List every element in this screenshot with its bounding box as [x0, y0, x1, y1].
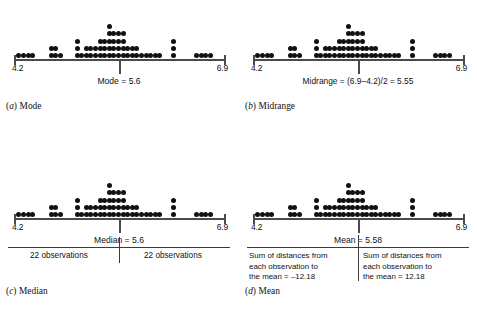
- median-left-note: 22 observations: [30, 250, 88, 261]
- data-dot: [360, 198, 365, 203]
- data-dot: [53, 46, 58, 51]
- data-dot: [410, 205, 415, 210]
- dotplot-c: [14, 165, 226, 217]
- data-dot: [297, 53, 302, 58]
- mean-left-note-line2: each observation to: [249, 262, 354, 273]
- data-dot: [410, 53, 415, 58]
- data-dot: [30, 53, 35, 58]
- caption-c: (c) Median: [6, 285, 48, 296]
- data-dot: [360, 39, 365, 44]
- data-dot: [107, 183, 112, 188]
- axis-label-min: 4.2: [12, 63, 23, 73]
- data-dot: [208, 53, 213, 58]
- median-split-divider: [119, 237, 120, 263]
- data-dot: [410, 212, 415, 217]
- data-dot: [53, 205, 58, 210]
- mean-right-note-line3: the mean = 12.18: [363, 272, 468, 283]
- caption-b: (b) Midrange: [245, 100, 295, 111]
- data-dot: [360, 31, 365, 36]
- data-dot: [410, 39, 415, 44]
- data-dot: [208, 212, 213, 217]
- data-dot: [292, 205, 297, 210]
- data-dot: [30, 212, 35, 217]
- median-pointer: [119, 218, 121, 233]
- mode-value-label: Mode = 5.6: [0, 76, 238, 86]
- panel-mode: 4.2 6.9 Mode = 5.6 (a) Mode: [0, 0, 238, 159]
- data-dot: [171, 46, 176, 51]
- mean-left-note: Sum of distances from each observation t…: [249, 251, 354, 283]
- axis-label-min: 4.2: [12, 222, 23, 232]
- mean-left-note-line3: the mean = –12.18: [249, 272, 354, 283]
- data-dot: [410, 46, 415, 51]
- data-dot: [396, 212, 401, 217]
- caption-a-text: Mode: [20, 101, 42, 111]
- axis-label-min: 4.2: [251, 222, 262, 232]
- data-dot: [75, 205, 80, 210]
- data-dot: [171, 212, 176, 217]
- caption-d-text: Mean: [259, 286, 280, 296]
- caption-d: (d) Mean: [245, 285, 280, 296]
- caption-a: (a) Mode: [6, 100, 41, 111]
- data-dot: [373, 205, 378, 210]
- data-dot: [75, 198, 80, 203]
- dotplot-a: [14, 6, 226, 58]
- mean-left-note-line1: Sum of distances from: [249, 251, 354, 262]
- data-dot: [157, 212, 162, 217]
- mean-split-divider: [358, 235, 359, 281]
- data-dot: [75, 39, 80, 44]
- mode-pointer: [119, 59, 121, 74]
- data-dot: [58, 53, 63, 58]
- panel-mean: 4.2 6.9 Mean = 5.58 Sum of distances fro…: [239, 159, 477, 318]
- data-dot: [171, 205, 176, 210]
- data-dot: [314, 198, 319, 203]
- mean-right-note: Sum of distances from each observation t…: [363, 251, 468, 283]
- data-dot: [269, 212, 274, 217]
- data-dot: [75, 46, 80, 51]
- data-dot: [171, 198, 176, 203]
- midrange-pointer: [358, 59, 360, 74]
- data-dot: [447, 53, 452, 58]
- data-dot: [292, 46, 297, 51]
- median-right-note: 22 observations: [144, 250, 202, 261]
- axis-label-max: 6.9: [217, 63, 228, 73]
- data-dot: [360, 190, 365, 195]
- data-dot: [171, 39, 176, 44]
- dotplot-d: [253, 165, 465, 217]
- axis-label-max: 6.9: [217, 222, 228, 232]
- data-dot: [121, 198, 126, 203]
- data-dot: [297, 212, 302, 217]
- data-dot: [314, 46, 319, 51]
- data-dot: [121, 39, 126, 44]
- axis-label-max: 6.9: [456, 222, 467, 232]
- data-dot: [171, 53, 176, 58]
- axis-label-min: 4.2: [251, 63, 262, 73]
- dotplot-b: [253, 6, 465, 58]
- mean-right-note-line2: each observation to: [363, 262, 468, 273]
- data-dot: [396, 53, 401, 58]
- data-dot: [107, 24, 112, 29]
- panel-median: 4.2 6.9 Median = 5.6 22 observations 22 …: [0, 159, 238, 318]
- data-dot: [134, 46, 139, 51]
- data-dot: [346, 183, 351, 188]
- data-dot: [314, 39, 319, 44]
- statistics-figure: 4.2 6.9 Mode = 5.6 (a) Mode 4.2 6.9 Midr…: [0, 0, 477, 318]
- data-dot: [58, 212, 63, 217]
- mean-right-note-line1: Sum of distances from: [363, 251, 468, 262]
- caption-b-text: Midrange: [259, 101, 295, 111]
- data-dot: [314, 205, 319, 210]
- data-dot: [269, 53, 274, 58]
- data-dot: [121, 31, 126, 36]
- data-dot: [346, 24, 351, 29]
- data-dot: [373, 46, 378, 51]
- axis-label-max: 6.9: [456, 63, 467, 73]
- data-dot: [157, 53, 162, 58]
- data-dot: [447, 212, 452, 217]
- data-dot: [410, 198, 415, 203]
- mean-pointer: [358, 218, 360, 233]
- caption-c-text: Median: [19, 286, 48, 296]
- midrange-value-label: Midrange = (6.9–4.2)/2 = 5.55: [239, 76, 477, 86]
- data-dot: [121, 190, 126, 195]
- panel-midrange: 4.2 6.9 Midrange = (6.9–4.2)/2 = 5.55 (b…: [239, 0, 477, 159]
- data-dot: [134, 205, 139, 210]
